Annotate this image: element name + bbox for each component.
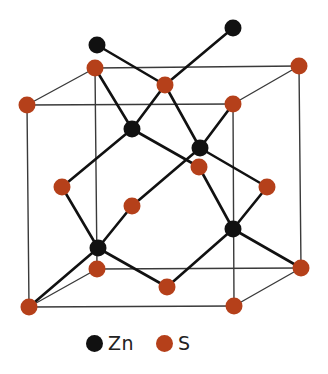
zn-s-bond	[132, 148, 200, 206]
cube-edge-back	[95, 68, 97, 269]
cube-edge-back	[97, 268, 301, 269]
zn-s-bond	[95, 68, 132, 129]
s-atom-icon	[124, 198, 141, 215]
s-atom-icon	[157, 77, 174, 94]
zn-atom-icon	[124, 121, 141, 138]
zn-s-bond	[165, 28, 233, 85]
legend-item-zn: Zn	[86, 332, 134, 354]
s-atom-icon	[19, 97, 36, 114]
cube-edge-depth	[233, 66, 299, 104]
zn-atom-icon	[89, 37, 106, 54]
cube-edge-front	[233, 104, 234, 306]
zn-dot-icon	[86, 335, 103, 352]
cube-edge-front	[27, 104, 233, 105]
s-atom-icon	[21, 299, 38, 316]
zn-s-bond	[233, 229, 301, 268]
zn-s-bond	[165, 85, 200, 148]
legend-item-s: S	[156, 332, 191, 354]
cube-edge-back	[299, 66, 301, 268]
zn-atom-icon	[225, 20, 242, 37]
s-atom-icon	[191, 159, 208, 176]
cube-edge-depth	[27, 68, 95, 105]
zn-s-bond	[199, 167, 233, 229]
zn-s-bond	[98, 248, 167, 287]
s-atom-icon	[259, 179, 276, 196]
zn-atom-icon	[90, 240, 107, 257]
s-atom-icon	[293, 260, 310, 277]
cube-edge-depth	[234, 268, 301, 306]
cube-edge-depth	[29, 269, 97, 307]
zinc-blende-unit-cell-diagram	[0, 0, 328, 374]
bonds	[29, 28, 301, 307]
cube-edge-front	[27, 105, 29, 307]
s-atom-icon	[159, 279, 176, 296]
s-atom-icon	[291, 58, 308, 75]
legend: Zn S	[86, 331, 213, 355]
legend-label-s: S	[178, 332, 191, 354]
cube-edge-front	[29, 306, 234, 307]
legend-label-zn: Zn	[108, 332, 134, 354]
s-atom-icon	[225, 96, 242, 113]
zinc-atoms	[89, 20, 242, 257]
zn-atom-icon	[225, 221, 242, 238]
zn-s-bond	[62, 187, 98, 248]
zn-s-bond	[167, 229, 233, 287]
s-atom-icon	[89, 261, 106, 278]
zn-s-bond	[29, 248, 98, 307]
zn-s-bond	[97, 45, 165, 85]
sulfur-atoms	[19, 58, 310, 316]
s-atom-icon	[54, 179, 71, 196]
s-atom-icon	[226, 298, 243, 315]
s-atom-icon	[87, 60, 104, 77]
s-dot-icon	[156, 335, 173, 352]
zn-s-bond	[132, 129, 199, 167]
zn-atom-icon	[192, 140, 209, 157]
zn-s-bond	[62, 129, 132, 187]
cube-edge-back	[95, 66, 299, 68]
